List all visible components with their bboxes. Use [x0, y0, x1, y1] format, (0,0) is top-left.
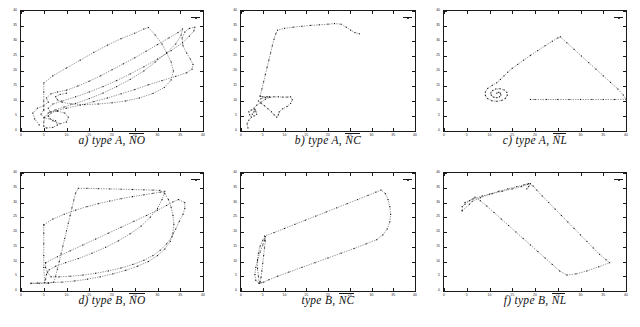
data-point: [548, 202, 549, 203]
overline-accent-icon: [552, 293, 566, 294]
series-quadrilateral-loop: [462, 183, 611, 276]
data-point: [586, 270, 587, 271]
data-point: [480, 197, 481, 198]
data-point: [473, 198, 474, 199]
data-point: [533, 185, 534, 186]
data-point: [544, 257, 545, 258]
data-point: [523, 238, 524, 239]
series-short-upper-edge: [464, 183, 531, 203]
data-point: [530, 244, 531, 245]
y-tick-right: [623, 291, 626, 292]
data-point: [559, 270, 560, 271]
data-point: [462, 206, 463, 207]
data-point: [575, 273, 576, 274]
plot-area-f: [443, 172, 627, 292]
data-point: [512, 188, 513, 189]
data-point: [542, 195, 543, 196]
data-point: [526, 188, 527, 189]
data-point: [605, 259, 606, 260]
y-tick-label: 40: [429, 171, 440, 174]
y-tick-label: 25: [429, 215, 440, 218]
data-point: [464, 202, 465, 203]
data-point: [536, 190, 537, 191]
data-point: [515, 231, 516, 232]
data-point: [482, 195, 483, 196]
data-point: [469, 204, 470, 205]
data-point: [561, 215, 562, 216]
data-point: [530, 183, 531, 184]
data-point: [462, 210, 463, 211]
series-path: [462, 184, 609, 275]
panel-caption-f: f) type B, NL: [423, 294, 640, 306]
data-point: [516, 186, 517, 187]
data-point: [574, 228, 575, 229]
data-point: [502, 191, 503, 192]
caption-type-label: type B,: [514, 294, 551, 306]
y-tick-label: 35: [429, 186, 440, 189]
data-point: [474, 197, 475, 198]
legend-key-f: [614, 179, 620, 181]
data-point: [494, 212, 495, 213]
data-point: [609, 262, 610, 263]
data-point: [586, 241, 587, 242]
x-tick-top: [626, 173, 627, 176]
series-layer-f: [444, 173, 626, 291]
y-tick-label: 20: [429, 230, 440, 233]
data-point: [552, 264, 553, 265]
data-point: [566, 275, 567, 276]
y-tick-label: 15: [429, 245, 440, 248]
data-point: [527, 184, 528, 185]
data-point: [480, 200, 481, 201]
y-tick-label: 30: [429, 201, 440, 204]
panel-f: 05101520253035400510152025303540f) type …: [0, 0, 640, 327]
data-point: [567, 221, 568, 222]
data-point: [498, 191, 499, 192]
data-point: [472, 201, 473, 202]
data-point: [537, 251, 538, 252]
data-point: [521, 186, 522, 187]
legend-point-icon: [618, 179, 620, 181]
data-point: [598, 266, 599, 267]
y-tick: [444, 291, 447, 292]
data-point: [508, 225, 509, 226]
data-point: [501, 218, 502, 219]
data-point: [593, 247, 594, 248]
caption-prefix: f): [504, 294, 515, 306]
caption-variable-text: NL: [552, 294, 567, 306]
y-tick-label: 10: [429, 260, 440, 263]
data-point: [464, 204, 465, 205]
data-point: [528, 186, 529, 187]
x-tick: [626, 288, 627, 291]
figure-root: 05101520253035400510152025303540a) type …: [0, 0, 640, 327]
series-path: [465, 184, 531, 203]
data-point: [599, 254, 600, 255]
data-point: [492, 193, 493, 194]
data-point: [554, 208, 555, 209]
data-point: [524, 184, 525, 185]
caption-variable: NL: [552, 294, 567, 306]
data-point: [486, 205, 487, 206]
y-tick-label: 0: [429, 289, 440, 292]
y-tick-label: 5: [429, 274, 440, 277]
data-point: [507, 188, 508, 189]
data-point: [580, 234, 581, 235]
